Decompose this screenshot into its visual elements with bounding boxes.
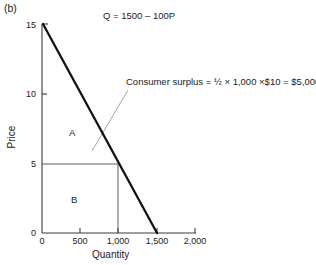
consumer-surplus-figure: (b) Q = 1500 – 100P Consumer surplus = ½… — [0, 0, 316, 265]
annotation-leader-line — [92, 90, 128, 151]
demand-curve-line — [43, 24, 157, 233]
plot-canvas — [0, 0, 316, 265]
